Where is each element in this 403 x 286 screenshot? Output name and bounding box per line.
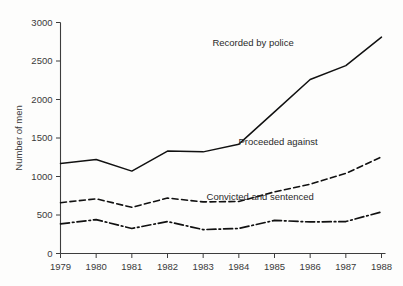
x-tick-label: 1980 [86,261,107,272]
line-chart: 050010001500200025003000 197919801981198… [0,0,403,286]
x-tick-label: 1987 [335,261,356,272]
y-tick-label: 2500 [31,55,52,66]
x-tick-label: 1982 [157,261,178,272]
series-label: Proceeded against [238,136,318,147]
y-tick-label: 3000 [31,17,52,28]
x-tick-label: 1983 [193,261,214,272]
x-tick-label: 1984 [228,261,249,272]
y-tick-label: 1000 [31,171,52,182]
y-tick-label: 1500 [31,132,52,143]
x-tick-label: 1986 [300,261,321,272]
x-tick-label: 1985 [264,261,285,272]
y-axis-ticks: 050010001500200025003000 [31,17,60,259]
series-annotations: Recorded by policeProceeded againstConvi… [207,37,318,202]
series-line-recorded-by-police [61,37,382,171]
x-tick-label: 1988 [371,261,392,272]
y-tick-label: 500 [37,209,53,220]
x-tick-label: 1979 [50,261,71,272]
series-label: Convicted and sentenced [207,191,314,202]
chart-canvas: 050010001500200025003000 197919801981198… [0,0,403,286]
y-tick-label: 0 [47,248,52,259]
series-line-convicted-and-sentenced [61,212,382,230]
series-label: Recorded by police [212,37,293,48]
y-tick-label: 2000 [31,94,52,105]
x-axis-ticks: 1979198019811982198319841985198619871988 [50,254,392,273]
x-tick-label: 1981 [121,261,142,272]
y-axis-title: Number of men [13,105,24,170]
